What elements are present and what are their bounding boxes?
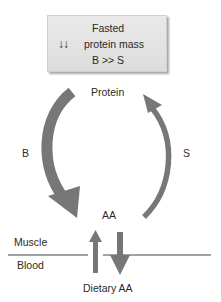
muscle-label: Muscle	[14, 236, 47, 248]
amino-acids-label: AA	[102, 209, 116, 221]
protein-label: Protein	[91, 86, 124, 98]
breakdown-arrow-icon	[47, 92, 80, 218]
uptake-up-arrow-icon	[89, 230, 102, 273]
blood-label: Blood	[17, 259, 44, 271]
release-down-arrow-icon	[110, 232, 130, 275]
breakdown-label: B	[22, 147, 29, 159]
synthesis-label: S	[183, 147, 190, 159]
synthesis-arrow-icon	[143, 94, 169, 217]
dietary-aa-label: Dietary AA	[83, 282, 133, 294]
